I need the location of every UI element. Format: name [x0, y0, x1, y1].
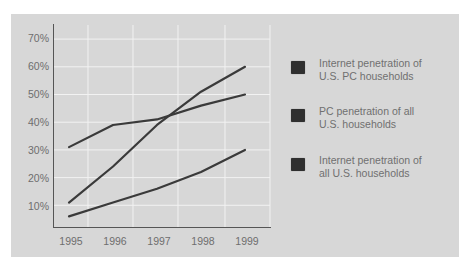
- legend-label: U.S. households: [319, 118, 449, 131]
- legend-item-pc-all-households: PC penetration of all U.S. households: [291, 105, 449, 131]
- legend-swatch-icon: [291, 109, 305, 122]
- legend-label: PC penetration of all: [319, 105, 449, 118]
- y-tick-label: 70%: [11, 32, 49, 44]
- line-chart: [0, 0, 468, 267]
- series-line-1: [69, 95, 245, 148]
- legend-swatch-icon: [291, 61, 305, 74]
- legend-label: all U.S. households: [319, 167, 449, 180]
- y-tick-label: 10%: [11, 200, 49, 212]
- legend-label: U.S. PC households: [319, 70, 449, 83]
- y-tick-label: 30%: [11, 144, 49, 156]
- y-tick-label: 50%: [11, 88, 49, 100]
- x-tick-label: 1995: [51, 235, 91, 247]
- x-tick-label: 1997: [139, 235, 179, 247]
- legend-label: Internet penetration of: [319, 154, 449, 167]
- legend-item-internet-all-households: Internet penetration of all U.S. househo…: [291, 154, 449, 180]
- x-tick-label: 1999: [227, 235, 267, 247]
- legend-swatch-icon: [291, 158, 305, 171]
- x-tick-label: 1996: [95, 235, 135, 247]
- x-tick-label: 1998: [183, 235, 223, 247]
- axes: [53, 24, 271, 228]
- gridlines: [54, 25, 270, 227]
- data-lines: [69, 67, 245, 217]
- series-line-2: [69, 150, 245, 216]
- y-tick-label: 40%: [11, 116, 49, 128]
- y-tick-label: 60%: [11, 60, 49, 72]
- legend-item-internet-pc-households: Internet penetration of U.S. PC househol…: [291, 57, 449, 83]
- legend-label: Internet penetration of: [319, 57, 449, 70]
- y-tick-label: 20%: [11, 172, 49, 184]
